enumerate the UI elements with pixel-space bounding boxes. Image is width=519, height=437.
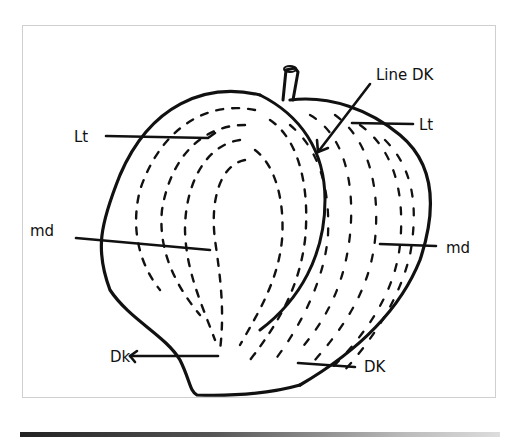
label-line-dk: Line DK	[376, 66, 435, 84]
inner-crease	[260, 95, 325, 330]
peach-sketch: Line DK Lt Lt md md Dk DK	[0, 0, 519, 437]
label-lt-left: Lt	[74, 128, 88, 146]
label-md-right: md	[446, 239, 470, 257]
leader-line-dk	[318, 84, 370, 152]
label-dk-right: DK	[364, 358, 387, 376]
leader-lt-right	[352, 123, 413, 124]
leader-lt-left	[106, 133, 215, 138]
page-edge-shadow	[20, 432, 500, 437]
leader-md-left	[76, 238, 210, 250]
leader-md-right	[380, 244, 436, 246]
label-lt-right: Lt	[419, 116, 433, 134]
label-md-left: md	[30, 222, 54, 240]
label-dk-left: Dk	[110, 348, 131, 366]
